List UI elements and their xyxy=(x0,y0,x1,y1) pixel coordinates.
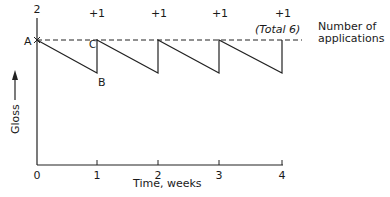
point-label-c: C xyxy=(89,40,96,50)
y-axis-label: Gloss xyxy=(9,104,22,134)
application-count-week-2: +1 xyxy=(151,8,167,19)
application-count-week-3: +1 xyxy=(212,8,228,19)
gloss-sawtooth-line xyxy=(37,40,282,73)
application-count-week-4: +1 xyxy=(275,8,291,19)
total-applications-note: (Total 6) xyxy=(255,24,300,35)
application-count-week-1: +1 xyxy=(89,8,105,19)
gloss-arrowhead-icon xyxy=(12,70,18,80)
x-axis-label: Time, weeks xyxy=(133,178,202,189)
x-tick-label-1: 1 xyxy=(94,170,101,181)
point-label-b: B xyxy=(98,77,106,88)
x-tick-label-3: 3 xyxy=(216,170,223,181)
x-tick-label-0: 0 xyxy=(34,170,41,181)
x-tick-label-4: 4 xyxy=(279,170,286,181)
application-count-week-0: 2 xyxy=(34,4,41,15)
point-label-a: A xyxy=(24,36,32,47)
legend-applications: applications xyxy=(318,32,384,45)
